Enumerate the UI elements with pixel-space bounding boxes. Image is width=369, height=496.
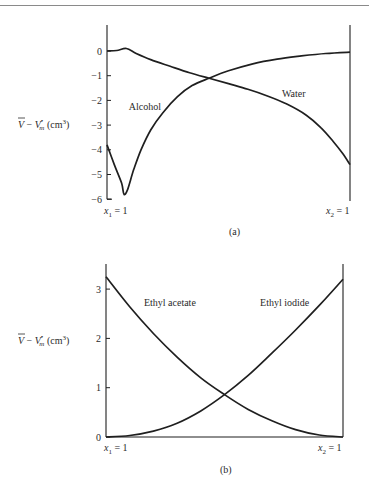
chart-b-axes (106, 264, 343, 437)
y-tick-label: −2 (91, 95, 102, 106)
y-tick-label: 2 (96, 333, 101, 344)
chart-a-axes (107, 25, 350, 201)
y-tick-label: −4 (91, 144, 102, 155)
chart-a-series (107, 48, 350, 194)
y-tick-label: 0 (96, 432, 101, 443)
y-tick-label: 0 (97, 46, 102, 57)
chart-b-xlabel-left: x1 = 1 (103, 442, 128, 456)
y-tick-label: 3 (96, 284, 101, 295)
chart-a-xlabel-left: x1 = 1 (103, 205, 128, 219)
chart-a-xlabel-right: x2 = 1 (325, 205, 350, 219)
y-tick-label: 1 (96, 382, 101, 393)
chart-b-xlabel-right: x2 = 1 (317, 442, 342, 456)
chart-b-yticks: 0123 (96, 284, 110, 443)
chart-b-caption: (b) (220, 464, 232, 476)
y-tick-label: −5 (91, 169, 102, 180)
chart-a-yticks: 0−1−2−3−4−5−6 (91, 46, 111, 205)
chart-a-ylabel: V − V•m (cm3) (18, 117, 69, 132)
y-tick-label: −3 (91, 120, 102, 131)
chart-b-series-labels: Ethyl acetateEthyl iodide (144, 297, 310, 308)
chart-a-caption: (a) (229, 226, 240, 238)
series-label-water: Water (282, 88, 306, 99)
chart-b: 0123 Ethyl acetateEthyl iodide V − V•m (… (18, 264, 343, 476)
series-label-ethyl-iodide: Ethyl iodide (260, 297, 310, 308)
figure: 0−1−2−3−4−5−6 WaterAlcohol V − V•m (cm3)… (0, 0, 369, 496)
y-tick-label: −6 (91, 194, 102, 205)
series-line-alcohol (107, 52, 350, 194)
chart-a: 0−1−2−3−4−5−6 WaterAlcohol V − V•m (cm3)… (18, 25, 350, 238)
series-label-alcohol: Alcohol (129, 101, 161, 112)
chart-b-ylabel: V − V•m (cm3) (18, 333, 69, 348)
y-tick-label: −1 (91, 70, 102, 81)
series-label-ethyl-acetate: Ethyl acetate (144, 297, 196, 308)
